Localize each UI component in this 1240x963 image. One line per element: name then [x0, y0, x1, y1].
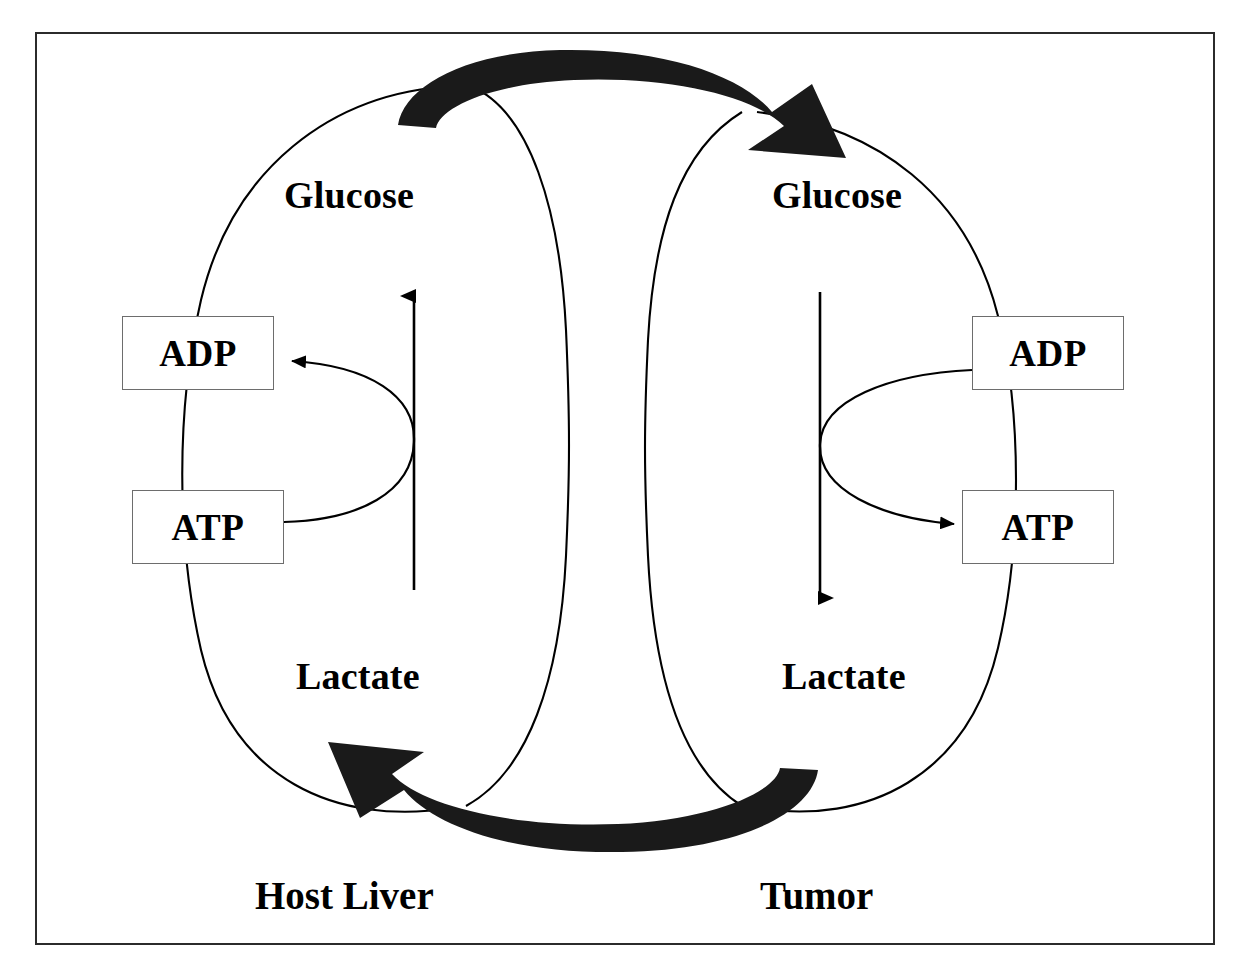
label-lactate-tumor: Lactate — [782, 657, 906, 695]
label-glucose-tumor: Glucose — [772, 176, 902, 214]
label-glucose-host-liver: Glucose — [284, 176, 414, 214]
label-lactate-host-liver: Lactate — [296, 657, 420, 695]
box-atp-tumor: ATP — [962, 490, 1114, 564]
box-adp-host-liver: ADP — [122, 316, 274, 390]
diagram-frame — [35, 32, 1215, 945]
figure-root: Glucose Glucose Lactate Lactate ADP ATP … — [0, 0, 1240, 963]
compartment-label-tumor: Tumor — [760, 876, 873, 915]
compartment-label-host-liver: Host Liver — [255, 876, 434, 915]
box-adp-tumor: ADP — [972, 316, 1124, 390]
box-atp-host-liver: ATP — [132, 490, 284, 564]
scan-artifact-text — [30, 0, 450, 5]
